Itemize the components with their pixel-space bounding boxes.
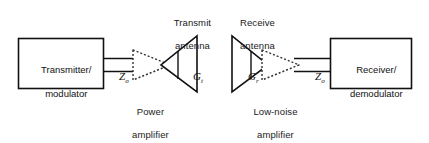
transmit-antenna-gain-label: Gt bbox=[182, 58, 203, 97]
power-amplifier-caption: Power amplifier (optional) bbox=[110, 94, 180, 143]
transmit-impedance-label: Zo bbox=[108, 58, 129, 97]
transmit-antenna-caption: Transmit antenna bbox=[148, 5, 226, 63]
low-noise-amplifier-caption-line1: Low-noise bbox=[253, 106, 297, 117]
receive-antenna-gain-symbol: G bbox=[248, 70, 256, 82]
transmitter-modulator-label: Transmitter/ modulator bbox=[18, 52, 104, 112]
transmit-impedance-subscript: o bbox=[125, 77, 129, 85]
receive-antenna-caption: Receive antenna bbox=[216, 5, 288, 63]
receive-impedance-label: Zo bbox=[304, 58, 325, 97]
receiver-demodulator-label-line2: demodulator bbox=[350, 88, 403, 99]
power-amplifier-caption-line2: amplifier bbox=[132, 129, 169, 140]
receiver-demodulator-label: Receiver/ demodulator bbox=[330, 52, 412, 112]
receive-impedance-subscript: o bbox=[321, 77, 325, 85]
transmit-antenna-gain-symbol: G bbox=[193, 70, 201, 82]
transmit-antenna-gain-subscript: t bbox=[201, 77, 203, 85]
receive-antenna-caption-line1: Receive bbox=[240, 17, 275, 28]
transmit-antenna-caption-line1: Transmit bbox=[174, 17, 211, 28]
receive-antenna-gain-label: Gr bbox=[237, 58, 259, 97]
receiver-demodulator-label-line1: Receiver/ bbox=[356, 64, 396, 75]
low-noise-amplifier-caption: Low-noise amplifier (optional) bbox=[230, 94, 310, 143]
receive-antenna-gain-subscript: r bbox=[256, 77, 259, 85]
receive-antenna-caption-line2: antenna bbox=[240, 40, 275, 51]
transmit-antenna-caption-line2: antenna bbox=[175, 40, 210, 51]
rf-link-block-diagram: Transmitter/ modulator Zo Gt Transmit an… bbox=[0, 0, 429, 143]
power-amplifier-caption-line1: Power bbox=[137, 106, 164, 117]
low-noise-amplifier-caption-line2: amplifier bbox=[257, 129, 294, 140]
transmitter-modulator-label-line2: modulator bbox=[45, 88, 87, 99]
transmitter-modulator-label-line1: Transmitter/ bbox=[41, 64, 91, 75]
